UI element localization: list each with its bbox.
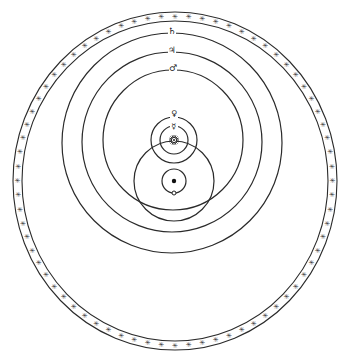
star-icon: ✳ bbox=[15, 191, 21, 199]
star-icon: ✳ bbox=[329, 191, 335, 199]
star-icon: ✳ bbox=[251, 320, 257, 328]
star-icon: ✳ bbox=[293, 283, 299, 291]
star-icon: ✳ bbox=[327, 206, 333, 214]
star-icon: ✳ bbox=[293, 71, 299, 79]
mercury-symbol-icon: ☿ bbox=[172, 122, 177, 131]
star-icon: ✳ bbox=[118, 332, 124, 340]
star-icon: ✳ bbox=[51, 71, 57, 79]
star-icon: ✳ bbox=[36, 95, 42, 103]
earth-icon bbox=[172, 179, 176, 183]
star-icon: ✳ bbox=[20, 220, 26, 228]
star-icon: ✳ bbox=[324, 220, 330, 228]
star-icon: ✳ bbox=[105, 326, 111, 334]
star-icon: ✳ bbox=[93, 320, 99, 328]
star-icon: ✳ bbox=[20, 134, 26, 142]
star-icon: ✳ bbox=[36, 259, 42, 267]
star-icon: ✳ bbox=[301, 83, 307, 91]
star-icon: ✳ bbox=[93, 35, 99, 43]
star-icon: ✳ bbox=[320, 121, 326, 129]
star-icon: ✳ bbox=[262, 312, 268, 320]
star-icon: ✳ bbox=[186, 13, 192, 21]
jupiter-symbol-icon: ♃ bbox=[168, 45, 176, 55]
star-icon: ✳ bbox=[71, 51, 77, 59]
star-icon: ✳ bbox=[131, 336, 137, 344]
star-icon: ✳ bbox=[145, 15, 151, 23]
star-icon: ✳ bbox=[29, 247, 35, 255]
star-icon: ✳ bbox=[251, 35, 257, 43]
star-icon: ✳ bbox=[262, 42, 268, 50]
star-icon: ✳ bbox=[324, 134, 330, 142]
star-icon: ✳ bbox=[327, 148, 333, 156]
star-icon: ✳ bbox=[43, 271, 49, 279]
star-icon: ✳ bbox=[213, 336, 219, 344]
star-icon: ✳ bbox=[320, 233, 326, 241]
star-icon: ✳ bbox=[283, 293, 289, 301]
star-icon: ✳ bbox=[158, 13, 164, 21]
star-icon: ✳ bbox=[329, 163, 335, 171]
star-icon: ✳ bbox=[105, 28, 111, 36]
star-icon: ✳ bbox=[308, 95, 314, 103]
star-icon: ✳ bbox=[283, 61, 289, 69]
star-icon: ✳ bbox=[239, 326, 245, 334]
star-icon: ✳ bbox=[330, 177, 336, 185]
star-icon: ✳ bbox=[172, 342, 178, 350]
star-icon: ✳ bbox=[226, 22, 232, 30]
star-icon: ✳ bbox=[15, 163, 21, 171]
star-icon: ✳ bbox=[273, 303, 279, 311]
saturn-symbol-icon: ♄ bbox=[168, 26, 176, 36]
moon-icon bbox=[172, 191, 176, 195]
mars-symbol-icon: ♂ bbox=[169, 63, 177, 73]
star-icon: ✳ bbox=[199, 15, 205, 23]
star-icon: ✳ bbox=[17, 206, 23, 214]
star-icon: ✳ bbox=[29, 108, 35, 116]
star-icon: ✳ bbox=[239, 28, 245, 36]
star-icon: ✳ bbox=[158, 341, 164, 349]
star-icon: ✳ bbox=[315, 108, 321, 116]
star-icon: ✳ bbox=[61, 61, 67, 69]
star-icon: ✳ bbox=[24, 121, 30, 129]
star-icon: ✳ bbox=[82, 312, 88, 320]
tychonic-system-diagram: ✳✳✳✳✳✳✳✳✳✳✳✳✳✳✳✳✳✳✳✳✳✳✳✳✳✳✳✳✳✳✳✳✳✳✳✳✳✳✳✳… bbox=[0, 0, 353, 358]
star-icon: ✳ bbox=[172, 13, 178, 21]
star-icon: ✳ bbox=[61, 293, 67, 301]
star-icon: ✳ bbox=[273, 51, 279, 59]
star-icon: ✳ bbox=[118, 22, 124, 30]
star-icon: ✳ bbox=[71, 303, 77, 311]
star-icon: ✳ bbox=[131, 18, 137, 26]
star-icon: ✳ bbox=[15, 177, 21, 185]
star-icon: ✳ bbox=[199, 339, 205, 347]
star-icon: ✳ bbox=[301, 271, 307, 279]
star-icon: ✳ bbox=[43, 83, 49, 91]
star-icon: ✳ bbox=[51, 283, 57, 291]
star-icon: ✳ bbox=[213, 18, 219, 26]
star-icon: ✳ bbox=[145, 339, 151, 347]
venus-symbol-icon: ♀ bbox=[171, 109, 177, 118]
star-icon: ✳ bbox=[226, 332, 232, 340]
star-icon: ✳ bbox=[315, 247, 321, 255]
star-icon: ✳ bbox=[186, 341, 192, 349]
star-icon: ✳ bbox=[308, 259, 314, 267]
star-icon: ✳ bbox=[24, 233, 30, 241]
star-icon: ✳ bbox=[82, 42, 88, 50]
star-icon: ✳ bbox=[17, 148, 23, 156]
